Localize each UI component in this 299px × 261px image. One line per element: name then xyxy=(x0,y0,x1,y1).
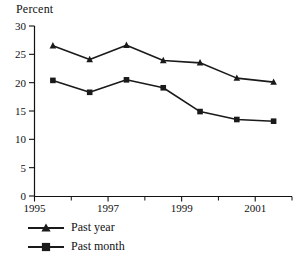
x-tick-label: 1999 xyxy=(171,202,194,214)
legend-item-past-year[interactable]: Past year xyxy=(28,218,125,237)
legend-label-past-month: Past month xyxy=(71,237,125,256)
square-marker xyxy=(234,117,240,123)
square-marker xyxy=(87,90,93,96)
square-marker-icon xyxy=(28,241,64,253)
square-marker xyxy=(271,118,277,124)
y-axis-ticks: 051015202530 xyxy=(15,20,35,202)
x-tick-label: 1997 xyxy=(97,202,120,214)
square-marker xyxy=(160,85,166,91)
series-line-past-year xyxy=(53,45,274,82)
y-tick-label: 25 xyxy=(15,48,27,60)
square-marker xyxy=(124,77,130,83)
plot-area: 051015202530 1995199719992001 xyxy=(0,0,299,215)
triangle-marker xyxy=(50,42,57,48)
data-series-group xyxy=(50,42,277,124)
chart-figure: Percent 051015202530 1995199719992001 Pa… xyxy=(0,0,299,261)
legend-label-past-year: Past year xyxy=(71,218,115,237)
y-tick-label: 10 xyxy=(15,133,27,145)
x-tick-label: 1995 xyxy=(24,202,47,214)
y-tick-label: 5 xyxy=(21,162,27,174)
x-axis-ticks: 1995199719992001 xyxy=(24,197,293,215)
square-marker xyxy=(50,78,56,84)
square-marker xyxy=(197,109,203,115)
triangle-marker-icon xyxy=(28,222,64,234)
triangle-marker xyxy=(123,42,130,48)
y-tick-label: 20 xyxy=(15,77,27,89)
y-tick-label: 30 xyxy=(15,20,27,32)
y-tick-label: 0 xyxy=(21,190,27,202)
legend-item-past-month[interactable]: Past month xyxy=(28,237,125,256)
chart-legend: Past year Past month xyxy=(28,218,125,256)
x-tick-label: 2001 xyxy=(244,202,266,214)
y-tick-label: 15 xyxy=(15,105,27,117)
